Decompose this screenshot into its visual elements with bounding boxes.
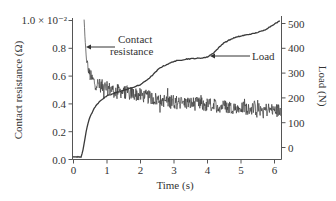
annotation-contact: Contact <box>118 33 152 45</box>
x-tick-label: 0 <box>71 164 77 176</box>
x-tick-label: 6 <box>272 164 278 176</box>
right-y-ticks: 0100200300400500 <box>282 18 306 154</box>
right-y-axis-title: Load (N) <box>316 66 329 107</box>
x-tick-label: 5 <box>238 164 244 176</box>
x-tick-label: 2 <box>138 164 144 176</box>
left-y-tick-label: 0.6 <box>52 70 66 82</box>
x-axis-title: Time (s) <box>156 179 194 192</box>
left-y-tick-label: 0.0 <box>52 154 66 166</box>
right-y-tick-label: 400 <box>288 42 305 54</box>
x-tick-label: 3 <box>171 164 177 176</box>
x-ticks: 0123456 <box>71 160 278 177</box>
y-multiplier-label: 1.0 × 10⁻² <box>21 14 67 26</box>
left-y-tick-label: 0.4 <box>52 98 66 110</box>
left-y-tick-label: 0.2 <box>52 126 66 138</box>
right-y-tick-label: 0 <box>288 142 294 154</box>
annotation-resistance: resistance <box>110 45 153 57</box>
arrowhead-icon <box>86 45 91 50</box>
chart: 0.00.20.40.60.8 0100200300400500 0123456… <box>0 0 336 201</box>
right-y-tick-label: 500 <box>288 18 305 30</box>
x-tick-label: 1 <box>104 164 110 176</box>
annotation-contact-resistance: Contact resistance <box>86 33 153 57</box>
annotation-load: Load <box>210 50 275 62</box>
left-y-ticks: 0.00.20.40.60.8 <box>52 21 72 166</box>
right-y-tick-label: 300 <box>288 67 305 79</box>
annotation-load-label: Load <box>252 50 275 62</box>
left-y-axis-title: Contact resistance (Ω) <box>12 40 25 139</box>
axes <box>73 16 282 160</box>
right-y-tick-label: 100 <box>288 117 305 129</box>
right-y-tick-label: 200 <box>288 92 305 104</box>
x-tick-label: 4 <box>205 164 211 176</box>
left-y-tick-label: 0.8 <box>52 42 66 54</box>
